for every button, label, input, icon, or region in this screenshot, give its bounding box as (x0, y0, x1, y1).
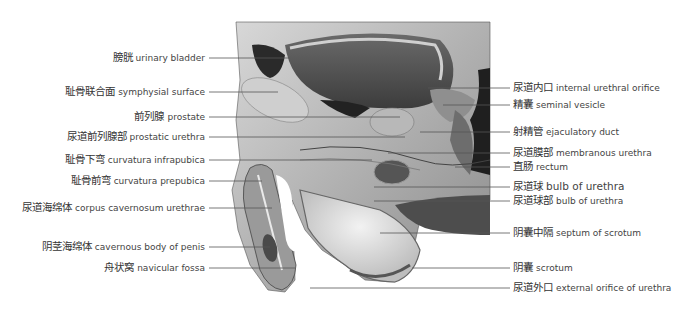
label-en: prostatic urethra (130, 132, 206, 142)
label-urinary-bladder: 膀胱urinary bladder (113, 51, 205, 64)
label-scrotum: 阴囊scrotum (513, 261, 573, 274)
label-zh: 尿道球部 (513, 194, 553, 206)
label-en: navicular fossa (137, 263, 205, 273)
label-curvatura-prepubica: 耻骨前弯curvatura prepubica (71, 174, 205, 187)
prostate-shape (370, 108, 414, 136)
label-navicular-fossa: 舟状窝navicular fossa (104, 261, 205, 274)
label-symphysial-surface: 耻骨联合面symphysial surface (65, 85, 205, 98)
label-zh: 直肠 (513, 160, 533, 172)
label-ejaculatory-duct: 射精管ejaculatory duct (513, 125, 619, 138)
label-zh: 尿道前列腺部 (67, 130, 127, 142)
label-bulb-of-urethra: 尿道球部bulb of urethra (513, 194, 623, 207)
label-zh: 尿道膜部 (513, 146, 553, 158)
label-en: prostate (167, 112, 205, 122)
label-internal-urethral-orifice: 尿道内口internal urethral orifice (513, 81, 660, 94)
label-seminal-vesicle: 精囊seminal vesicle (513, 98, 605, 111)
label-rectum: 直肠rectum (513, 160, 568, 173)
anatomy-figure: 膀胱urinary bladder耻骨联合面symphysial surface… (0, 0, 692, 312)
label-en: scrotum (536, 263, 573, 273)
label-zh: 阴茎海绵体 (42, 240, 92, 252)
label-bulb-of-urethra: 尿道球bulb of urethra (513, 180, 624, 193)
label-septum-of-scrotum: 阴囊中隔septum of scrotum (513, 226, 641, 239)
label-en: septum of scrotum (556, 228, 641, 238)
label-en: cavernous body of penis (95, 242, 205, 252)
label-en: internal urethral orifice (556, 83, 660, 93)
label-en: corpus cavernosum urethrae (75, 203, 205, 213)
label-en: symphysial surface (118, 87, 205, 97)
label-zh: 尿道内口 (513, 81, 553, 93)
label-cavernous-body-of-penis: 阴茎海绵体cavernous body of penis (42, 240, 205, 253)
label-en: urinary bladder (136, 53, 205, 63)
label-zh: 尿道海绵体 (22, 201, 72, 213)
label-zh: 射精管 (513, 125, 543, 137)
label-zh: 耻骨下弯 (65, 153, 105, 165)
label-en: bulb of urethra (556, 196, 623, 206)
label-zh: 耻骨前弯 (71, 174, 111, 186)
label-en: membranous urethra (556, 148, 652, 158)
label-zh: 尿道球 (513, 180, 543, 192)
label-curvatura-infrapubica: 耻骨下弯curvatura infrapubica (65, 153, 205, 166)
label-en: curvatura prepubica (114, 176, 205, 186)
label-zh: 阴囊中隔 (513, 226, 553, 238)
label-zh: 耻骨联合面 (65, 85, 115, 97)
label-zh: 阴囊 (513, 261, 533, 273)
label-en: curvatura infrapubica (108, 155, 205, 165)
label-membranous-urethra: 尿道膜部membranous urethra (513, 146, 652, 159)
label-external-orifice-of-urethra: 尿道外口external orifice of urethra (513, 281, 671, 294)
label-en: ejaculatory duct (546, 127, 619, 137)
urethral-bulb-shape (374, 160, 410, 184)
label-zh: 膀胱 (113, 51, 133, 63)
label-en: rectum (536, 162, 568, 172)
label-zh: 前列腺 (134, 110, 164, 122)
label-prostatic-urethra: 尿道前列腺部prostatic urethra (67, 130, 206, 143)
label-zh: 精囊 (513, 98, 533, 110)
label-en: bulb of urethra (546, 180, 624, 192)
label-zh: 尿道外口 (513, 281, 553, 293)
label-zh: 舟状窝 (104, 261, 134, 273)
label-en: external orifice of urethra (556, 283, 671, 293)
label-prostate: 前列腺prostate (134, 110, 205, 123)
label-en: seminal vesicle (536, 100, 605, 110)
label-corpus-cavernosum-urethrae: 尿道海绵体corpus cavernosum urethrae (22, 201, 205, 214)
